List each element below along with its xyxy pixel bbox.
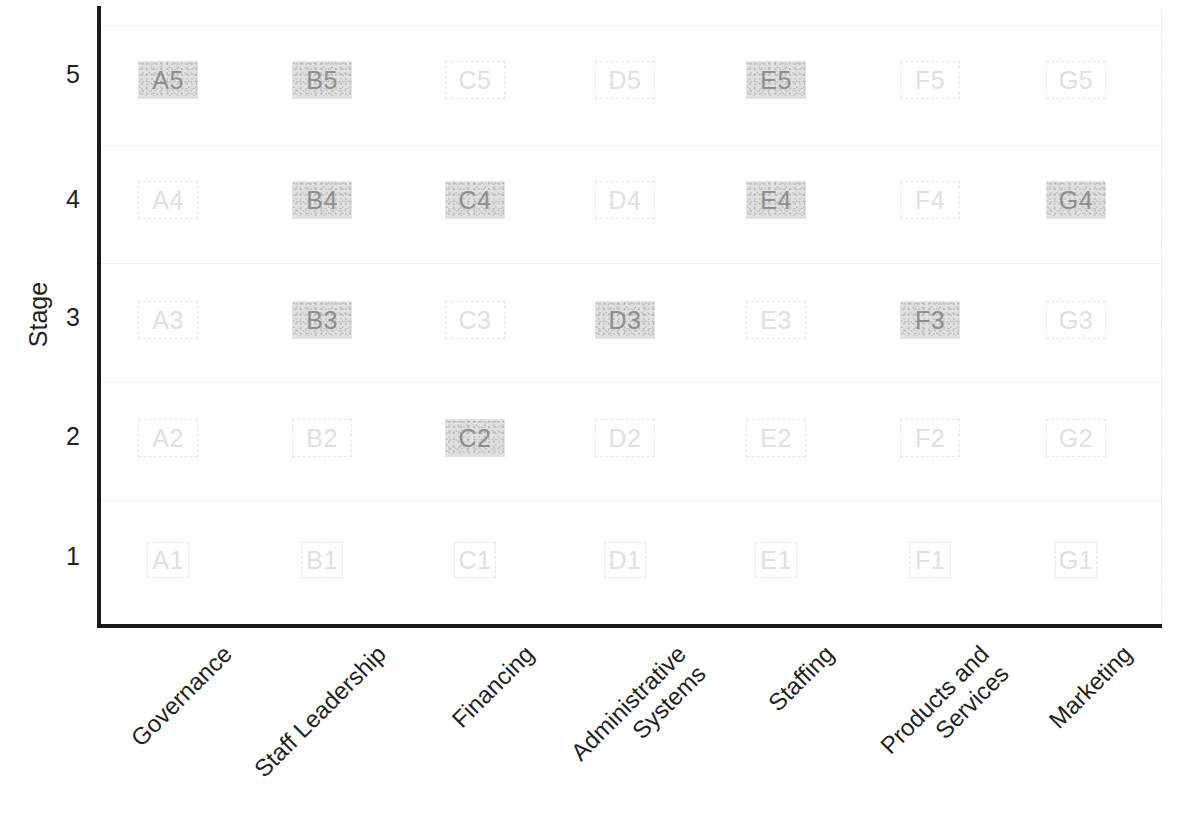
matrix-cell-label: G3 [1059,308,1093,333]
matrix-cell-b3[interactable]: B3 [292,301,352,339]
matrix-cell-label: G2 [1059,426,1093,451]
matrix-cell-label: C5 [459,68,492,93]
matrix-cell-label: E3 [760,308,792,333]
matrix-cell-e3[interactable]: E3 [746,301,806,339]
matrix-cell-c5[interactable]: C5 [445,61,505,99]
matrix-cell-label: A2 [152,426,184,451]
matrix-cell-label: G4 [1059,188,1093,213]
matrix-cell-d5[interactable]: D5 [595,61,655,99]
matrix-cell-label: F4 [915,188,945,213]
x-axis-line [97,624,1162,628]
matrix-cell-a1[interactable]: A1 [147,542,189,578]
matrix-cell-label: E5 [760,68,792,93]
y-tick-label-1: 1 [40,544,80,569]
matrix-cell-label: F5 [915,68,945,93]
matrix-cell-g5[interactable]: G5 [1046,61,1106,99]
matrix-cell-b2[interactable]: B2 [292,419,352,457]
matrix-cell-a4[interactable]: A4 [138,181,198,219]
matrix-cell-g3[interactable]: G3 [1046,301,1106,339]
stage-matrix-chart: Stage 5 4 3 2 1 A5B5C5D5E5F5G5A4B4C4D4E4… [0,0,1187,813]
matrix-cell-d2[interactable]: D2 [595,419,655,457]
matrix-cell-label: G5 [1059,68,1093,93]
matrix-cell-f2[interactable]: F2 [900,419,960,457]
matrix-cell-label: E2 [760,426,792,451]
x-axis-label-governance: Governance [6,640,238,813]
gridline [99,145,1162,147]
matrix-cell-label: C3 [459,308,492,333]
matrix-cell-label: E1 [760,548,792,573]
gridline [99,263,1162,265]
matrix-cell-label: C1 [459,548,492,573]
matrix-cell-label: D1 [609,548,642,573]
matrix-cell-label: A4 [152,188,184,213]
matrix-cell-b5[interactable]: B5 [292,61,352,99]
y-tick-label-4: 4 [40,187,80,212]
plot-right-edge [1161,10,1162,624]
matrix-cell-c4[interactable]: C4 [445,181,505,219]
matrix-cell-label: D3 [609,308,642,333]
matrix-cell-a3[interactable]: A3 [138,301,198,339]
matrix-cell-f1[interactable]: F1 [909,542,951,578]
matrix-cell-label: C4 [459,188,492,213]
gridline [99,25,1162,27]
matrix-cell-label: B1 [306,548,338,573]
matrix-cell-f5[interactable]: F5 [900,61,960,99]
matrix-cell-c3[interactable]: C3 [445,301,505,339]
matrix-cell-label: F2 [915,426,945,451]
matrix-cell-label: F3 [915,308,945,333]
y-tick-label-3: 3 [40,305,80,330]
gridline [99,500,1162,502]
matrix-cell-label: B4 [306,188,338,213]
x-axis-label-financing: Financing [308,640,540,813]
matrix-cell-g1[interactable]: G1 [1055,542,1097,578]
matrix-cell-d4[interactable]: D4 [595,181,655,219]
matrix-cell-b4[interactable]: B4 [292,181,352,219]
matrix-cell-a2[interactable]: A2 [138,419,198,457]
gridline [99,382,1162,384]
matrix-cell-label: G1 [1059,548,1093,573]
matrix-cell-e5[interactable]: E5 [746,61,806,99]
matrix-cell-d1[interactable]: D1 [604,542,646,578]
matrix-cell-c1[interactable]: C1 [454,542,496,578]
matrix-cell-label: B2 [306,426,338,451]
matrix-cell-label: B3 [306,308,338,333]
matrix-cell-b1[interactable]: B1 [301,542,343,578]
matrix-cell-e1[interactable]: E1 [755,542,797,578]
matrix-cell-label: A1 [152,548,184,573]
matrix-cell-label: F1 [915,548,945,573]
matrix-cell-a5[interactable]: A5 [138,61,198,99]
y-tick-label-2: 2 [40,424,80,449]
matrix-cell-label: D5 [609,68,642,93]
y-tick-label-5: 5 [40,62,80,87]
matrix-cell-f4[interactable]: F4 [900,181,960,219]
matrix-cell-f3[interactable]: F3 [900,301,960,339]
matrix-cell-g4[interactable]: G4 [1046,181,1106,219]
matrix-cell-label: A3 [152,308,184,333]
matrix-cell-c2[interactable]: C2 [445,419,505,457]
y-axis-line [97,6,101,628]
matrix-cell-e4[interactable]: E4 [746,181,806,219]
matrix-cell-g2[interactable]: G2 [1046,419,1106,457]
matrix-cell-label: D2 [609,426,642,451]
matrix-cell-e2[interactable]: E2 [746,419,806,457]
matrix-cell-label: B5 [306,68,338,93]
matrix-cell-label: D4 [609,188,642,213]
matrix-cell-d3[interactable]: D3 [595,301,655,339]
matrix-cell-label: E4 [760,188,792,213]
matrix-cell-label: C2 [459,426,492,451]
matrix-cell-label: A5 [152,68,184,93]
